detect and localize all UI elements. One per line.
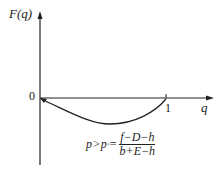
denominator: b+E−h [119,145,157,158]
x-tick-label: 1 [165,101,171,116]
fraction: f−D−h b+E−h [119,131,157,158]
formula: p > p* = f−D−h b+E−h [86,131,156,158]
y-axis-label: F(q) [9,6,32,22]
formula-lhs: p [86,137,92,152]
origin-label: 0 [29,89,35,104]
y-axis-arrow-icon [38,11,43,19]
numerator: f−D−h [119,131,155,145]
curve-arrow-icon [40,98,47,103]
curve [41,99,166,124]
formula-eq: = [110,137,117,152]
formula-gt: > [93,137,100,152]
x-axis-label: q [201,100,208,116]
